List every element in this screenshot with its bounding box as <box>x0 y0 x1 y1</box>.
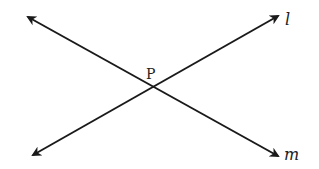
intersection-label-p: P <box>146 66 155 82</box>
line-l <box>33 16 278 155</box>
line-label-m: m <box>284 145 299 164</box>
line-l-segment <box>33 16 278 155</box>
line-label-l: l <box>285 10 290 29</box>
diagram-canvas: P l m <box>0 0 319 169</box>
